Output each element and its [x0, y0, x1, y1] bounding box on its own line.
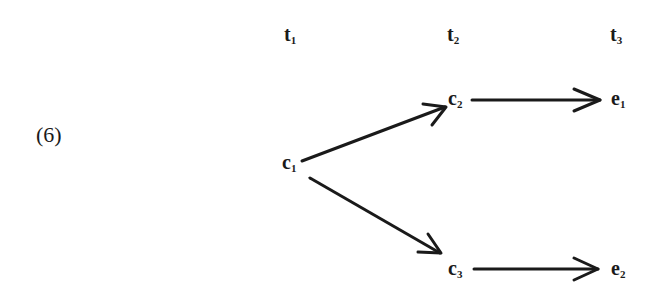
arrow-c3-e2: [474, 258, 598, 280]
arrow-c1-c2: [302, 104, 446, 161]
arrow-c2-e1: [472, 89, 600, 111]
arrow-c1-c3: [310, 178, 441, 253]
diagram-edges: [0, 0, 660, 296]
